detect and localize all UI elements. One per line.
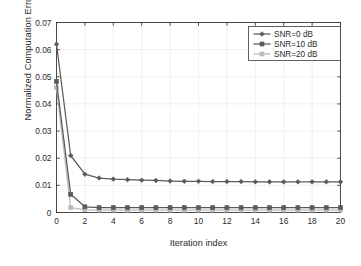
data-point-marker	[154, 206, 158, 210]
x-tick-label: 4	[111, 216, 116, 226]
y-tick-label: 0.05	[35, 72, 52, 82]
line-chart: 0246810121416182000.010.020.030.040.050.…	[0, 0, 361, 266]
x-tick-label: 6	[139, 216, 144, 226]
data-point-marker	[83, 205, 87, 209]
x-tick-label: 12	[222, 216, 232, 226]
data-point-marker	[69, 192, 73, 196]
y-tick-label: 0.06	[35, 45, 52, 55]
y-tick-label: 0.02	[35, 153, 52, 163]
chart-figure: 0246810121416182000.010.020.030.040.050.…	[0, 0, 361, 266]
y-tick-label: 0.07	[35, 18, 52, 28]
x-tick-label: 10	[194, 216, 204, 226]
data-point-marker	[182, 206, 186, 210]
x-tick-label: 8	[168, 216, 173, 226]
x-tick-label: 0	[54, 216, 59, 226]
data-point-marker	[339, 206, 343, 210]
data-point-marker	[260, 52, 264, 56]
data-point-marker	[324, 206, 328, 210]
data-point-marker	[140, 206, 144, 210]
data-point-marker	[211, 206, 215, 210]
chart-legend: SNR=0 dBSNR=10 dBSNR=20 dB	[249, 27, 341, 61]
data-point-marker	[260, 42, 264, 46]
legend-label: SNR=20 dB	[274, 50, 318, 59]
data-point-marker	[253, 206, 257, 210]
data-point-marker	[168, 206, 172, 210]
x-tick-label: 16	[279, 216, 289, 226]
y-tick-label: 0	[47, 208, 52, 218]
y-axis-title: Normalized Computation Error	[23, 0, 33, 155]
data-point-marker	[282, 206, 286, 210]
data-point-marker	[296, 206, 300, 210]
data-point-marker	[239, 206, 243, 210]
data-point-marker	[197, 206, 201, 210]
x-tick-label: 18	[307, 216, 317, 226]
data-point-marker	[111, 206, 115, 210]
data-point-marker	[69, 206, 73, 210]
data-point-marker	[97, 206, 101, 210]
data-point-marker	[126, 206, 130, 210]
data-point-marker	[268, 206, 272, 210]
legend-label: SNR=10 dB	[274, 40, 318, 49]
x-axis-title: Iteration index	[56, 238, 341, 248]
y-tick-label: 0.03	[35, 126, 52, 136]
y-tick-label: 0.04	[35, 99, 52, 109]
data-point-marker	[55, 79, 59, 83]
x-tick-label: 20	[336, 216, 346, 226]
x-tick-label: 14	[251, 216, 261, 226]
legend-label: SNR=0 dB	[274, 30, 313, 39]
data-point-marker	[225, 206, 229, 210]
y-tick-label: 0.01	[35, 180, 52, 190]
x-tick-label: 2	[83, 216, 88, 226]
data-point-marker	[310, 206, 314, 210]
